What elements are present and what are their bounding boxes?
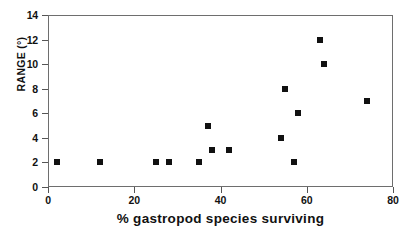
data-point — [54, 159, 60, 165]
y-axis-tick-label: 4 — [12, 132, 38, 144]
x-axis-tick-label: 0 — [33, 194, 63, 206]
y-axis-tick-label: 0 — [12, 181, 38, 193]
plot-area — [48, 15, 393, 187]
x-axis-tick-label: 60 — [292, 194, 322, 206]
data-point — [226, 147, 232, 153]
x-axis-tick-label: 40 — [206, 194, 236, 206]
data-point — [205, 123, 211, 129]
data-point — [291, 159, 297, 165]
x-axis-label: % gastropod species surviving — [48, 211, 393, 226]
data-point — [209, 147, 215, 153]
scatter-chart-figure: 02468101214 020406080 % gastropod specie… — [0, 0, 407, 243]
x-axis-tick-label: 80 — [378, 194, 407, 206]
data-point — [196, 159, 202, 165]
y-axis-tick-label: 2 — [12, 156, 38, 168]
data-point — [295, 110, 301, 116]
x-axis-tick — [307, 187, 308, 193]
data-point — [317, 37, 323, 43]
data-point — [364, 98, 370, 104]
data-point — [321, 61, 327, 67]
x-axis-tick — [221, 187, 222, 193]
data-point — [282, 86, 288, 92]
x-axis-tick — [393, 187, 394, 193]
data-point — [278, 135, 284, 141]
x-axis-tick — [48, 187, 49, 193]
x-axis-tick — [134, 187, 135, 193]
data-point — [166, 159, 172, 165]
x-axis-tick-label: 20 — [119, 194, 149, 206]
y-axis-label: RANGE (°) — [15, 0, 27, 129]
data-point — [153, 159, 159, 165]
data-point — [97, 159, 103, 165]
